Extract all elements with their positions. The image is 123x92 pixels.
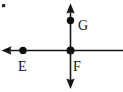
point-dot-e (19, 47, 26, 54)
point-label-g: G (78, 18, 88, 33)
point-dot-f (67, 47, 75, 55)
point-label-e: E (18, 59, 27, 74)
left-arrowhead-icon (2, 46, 12, 54)
figure-canvas: E F G (0, 0, 123, 92)
down-arrowhead-icon (66, 79, 74, 89)
point-label-f: F (73, 59, 81, 74)
scan-speck-artifact (2, 4, 5, 7)
point-dot-g (67, 17, 74, 24)
geometry-figure: E F G (0, 0, 123, 92)
up-arrowhead-icon (66, 3, 74, 13)
